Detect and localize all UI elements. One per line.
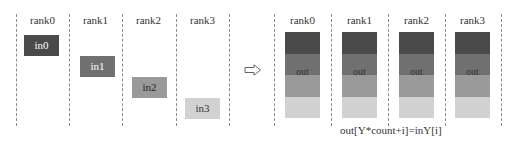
input-block-in0: in0 [24, 35, 59, 56]
divider-line [176, 14, 177, 126]
formula-caption: out[Y*count+i]=inY[i] [340, 124, 442, 136]
divider-line [388, 14, 389, 126]
divider-line [69, 14, 70, 126]
divider-line [274, 14, 275, 126]
input-block-in3: in3 [185, 98, 220, 119]
output-block-rank0: out [285, 32, 320, 118]
output-label: out [342, 66, 377, 77]
rank-label: rank3 [446, 14, 499, 26]
output-label: out [399, 66, 434, 77]
output-block-rank2: out [399, 32, 434, 118]
rank-label: rank0 [276, 14, 329, 26]
divider-line [229, 14, 230, 126]
rank-label: rank3 [176, 14, 229, 26]
rank-label: rank2 [390, 14, 443, 26]
divider-line [122, 14, 123, 126]
output-label: out [285, 66, 320, 77]
output-label: out [455, 66, 490, 77]
divider-line [445, 14, 446, 126]
right-arrow-icon [244, 64, 262, 76]
rank-label: rank1 [333, 14, 386, 26]
divider-line [16, 14, 17, 126]
input-block-in2: in2 [132, 77, 167, 98]
rank-label: rank0 [16, 14, 69, 26]
input-block-in1: in1 [80, 56, 115, 77]
divider-line [331, 14, 332, 126]
output-block-rank1: out [342, 32, 377, 118]
divider-line [501, 14, 502, 126]
output-block-rank3: out [455, 32, 490, 118]
rank-label: rank2 [122, 14, 175, 26]
rank-label: rank1 [69, 14, 122, 26]
